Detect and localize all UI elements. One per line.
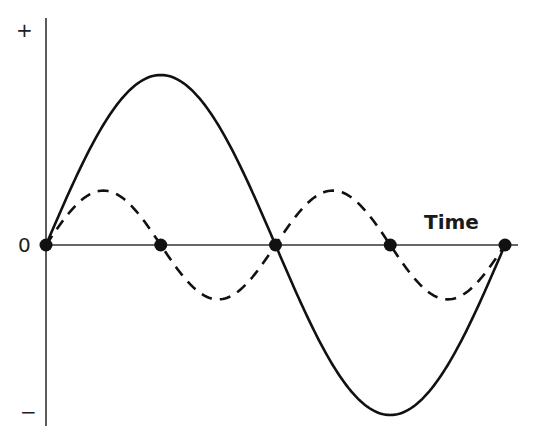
x-axis-title: Time [424, 212, 479, 232]
zero-crossing-dot [384, 239, 397, 252]
y-tick-minus: − [20, 402, 37, 422]
zero-crossing-dot [40, 239, 53, 252]
y-tick-zero: 0 [18, 235, 31, 255]
zero-crossing-dot [499, 239, 512, 252]
y-tick-plus: + [16, 20, 33, 40]
waveform-diagram: + 0 − Time [0, 0, 540, 446]
zero-crossing-dot [269, 239, 282, 252]
zero-crossing-dot [154, 239, 167, 252]
